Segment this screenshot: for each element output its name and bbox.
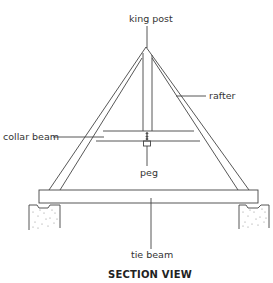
- king-post-label: king post: [129, 14, 173, 24]
- left-rafter: [49, 47, 146, 190]
- king-post: [143, 53, 152, 131]
- rafter-label: rafter: [209, 91, 235, 101]
- tie-beam-label: tie beam: [131, 250, 173, 260]
- left-masonry-pad: [29, 205, 60, 230]
- collar-beam-label: collar beam: [3, 132, 59, 142]
- right-masonry-pad: [239, 205, 269, 229]
- right-rafter: [146, 47, 249, 190]
- peg-label: peg: [140, 168, 158, 178]
- tie-beam: [39, 190, 258, 203]
- masonry-stipple: [33, 209, 267, 229]
- peg: [144, 133, 151, 146]
- diagram-title: SECTION VIEW: [108, 270, 192, 280]
